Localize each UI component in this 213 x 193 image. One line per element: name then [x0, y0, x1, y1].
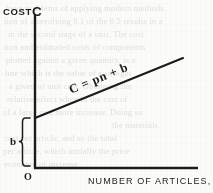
equation-label: C = pn + b — [67, 60, 130, 96]
y-axis-symbol: C — [32, 4, 42, 19]
y-axis-label: COST — [3, 6, 32, 17]
cost-line-chart: COST C NUMBER OF ARTICLES, n C = pn + b … — [0, 0, 213, 193]
figure-container: have problems of applying modern methods… — [0, 0, 213, 193]
origin-label: O — [24, 171, 32, 182]
intercept-brace — [20, 118, 31, 166]
intercept-label: b — [10, 135, 16, 147]
x-axis-label: NUMBER OF ARTICLES, n — [88, 176, 213, 186]
